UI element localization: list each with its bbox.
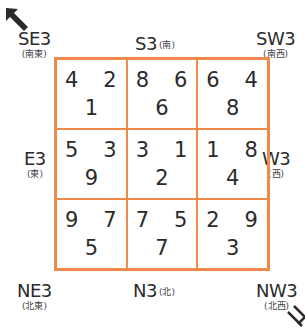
cell-w-top-right: 8: [245, 140, 258, 161]
label-e-sub: (東): [24, 170, 46, 179]
cell-s-center: 6: [128, 98, 197, 119]
cell-nw: 2 9 3: [197, 199, 268, 269]
cell-nw-center: 3: [198, 238, 267, 259]
cell-sw-center: 8: [198, 98, 267, 119]
label-nw: NW3 (北西): [256, 282, 297, 311]
label-n: N3(北): [133, 282, 175, 300]
label-ne-main: NE3: [17, 282, 52, 300]
label-s: S3(南): [135, 35, 175, 53]
label-sw-main: SW3: [256, 30, 295, 48]
cell-center-top-left: 3: [136, 140, 149, 161]
cell-ne-top-left: 9: [65, 210, 78, 231]
cell-e-center: 9: [57, 168, 126, 189]
cell-ne-top-right: 7: [103, 210, 116, 231]
label-n-main: N3: [133, 280, 157, 301]
label-ne-sub: (北東): [17, 302, 52, 311]
cell-sw-top-left: 6: [206, 70, 219, 91]
cell-w-top-left: 1: [206, 140, 219, 161]
label-nw-main: NW3: [256, 282, 297, 300]
label-se: SE3 (南東): [18, 30, 51, 59]
label-sw: SW3 (南西): [256, 30, 295, 59]
cell-se-top-right: 2: [103, 70, 116, 91]
cell-n-top-left: 7: [136, 210, 149, 231]
cell-nw-top-right: 9: [245, 210, 258, 231]
cell-center-top-right: 1: [174, 140, 187, 161]
cell-e: 5 3 9: [56, 129, 127, 199]
label-n-sub: (北): [159, 287, 175, 297]
label-se-main: SE3: [18, 30, 51, 48]
cell-sw-top-right: 4: [245, 70, 258, 91]
cell-n-center: 7: [128, 238, 197, 259]
cell-sw: 6 4 8: [197, 59, 268, 129]
cell-se-center: 1: [57, 98, 126, 119]
label-e: E3 (東): [24, 150, 46, 179]
cell-se-top-left: 4: [65, 70, 78, 91]
cell-s-top-right: 6: [174, 70, 187, 91]
cell-center: 3 1 2: [127, 129, 198, 199]
label-e-main: E3: [24, 150, 46, 168]
cell-n-top-right: 5: [174, 210, 187, 231]
label-nw-sub: (北西): [256, 302, 297, 311]
label-s-sub: (南): [159, 40, 175, 50]
cell-ne-center: 5: [57, 238, 126, 259]
cell-w: 1 8 4: [197, 129, 268, 199]
cell-s: 8 6 6: [127, 59, 198, 129]
cell-w-center: 4: [198, 168, 267, 189]
cell-e-top-right: 3: [103, 140, 116, 161]
label-ne: NE3 (北東): [17, 282, 52, 311]
cell-e-top-left: 5: [65, 140, 78, 161]
cell-s-top-left: 8: [136, 70, 149, 91]
cell-center-center: 2: [128, 168, 197, 189]
label-s-main: S3: [135, 33, 157, 54]
flying-star-grid: 4 2 1 8 6 6 6 4 8 5 3 9 3 1 2 1 8 4 9 7 …: [54, 57, 270, 271]
label-se-sub: (南東): [18, 50, 51, 59]
cell-nw-top-left: 2: [206, 210, 219, 231]
cell-ne: 9 7 5: [56, 199, 127, 269]
cell-se: 4 2 1: [56, 59, 127, 129]
cell-n: 7 5 7: [127, 199, 198, 269]
